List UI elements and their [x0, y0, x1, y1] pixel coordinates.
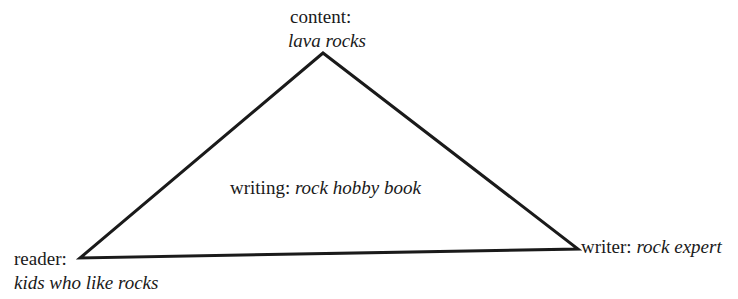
reader-node: reader:	[14, 248, 67, 270]
reader-role: reader:	[14, 248, 67, 269]
content-node: content:	[290, 6, 351, 28]
writer-role: writer:	[581, 236, 632, 257]
reader-value: kids who like rocks	[14, 272, 158, 294]
writing-role: writing:	[230, 177, 290, 198]
writer-node: writer: rock expert	[581, 236, 722, 258]
content-role: content:	[290, 6, 351, 28]
content-value: lava rocks	[288, 30, 366, 52]
writer-value: rock expert	[636, 236, 721, 257]
center-node: writing: rock hobby book	[230, 177, 421, 199]
writing-value: rock hobby book	[295, 177, 421, 198]
